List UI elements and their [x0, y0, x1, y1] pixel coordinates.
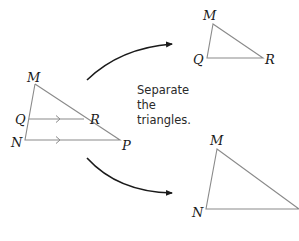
- label-m-top: M: [202, 8, 217, 23]
- label-q: Q: [15, 112, 26, 127]
- label-n: N: [10, 135, 23, 150]
- triangle-mnp-outline: [25, 84, 120, 140]
- label-m-bottom: M: [209, 133, 224, 148]
- arrow-down-icon: [87, 158, 172, 193]
- triangle-mqr: M Q R: [193, 8, 275, 67]
- label-n-bottom: N: [191, 205, 204, 220]
- instruction-caption: Separate the triangles.: [137, 83, 207, 128]
- original-triangle: M Q R N P: [10, 70, 131, 153]
- triangle-mnp-result: M N: [191, 133, 299, 220]
- triangle-mqr-outline: [207, 24, 263, 58]
- label-r-top: R: [264, 52, 275, 67]
- label-p: P: [121, 138, 131, 153]
- triangle-mnp-result-outline: [206, 149, 299, 209]
- arrow-up-icon: [87, 44, 172, 80]
- caption-line: Separate: [137, 83, 207, 98]
- caption-line: the: [137, 98, 207, 113]
- caption-line: triangles.: [137, 113, 207, 128]
- label-r: R: [89, 112, 100, 127]
- label-q-top: Q: [193, 52, 204, 67]
- label-m: M: [26, 70, 41, 85]
- diagram: M Q R N P M Q R M N Separate the triangl…: [0, 0, 299, 241]
